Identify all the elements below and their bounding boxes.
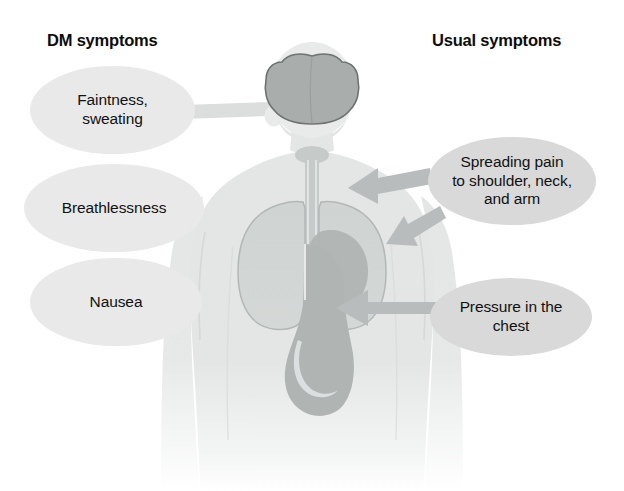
callout-spreading-pain: Spreading painto shoulder, neck,and arm xyxy=(428,137,596,225)
callout-breathlessness: Breathlessness xyxy=(24,164,204,252)
heading-usual-symptoms: Usual symptoms xyxy=(432,31,561,50)
symptom-diagram: DM symptoms Usual symptoms Faintness,swe… xyxy=(0,0,624,491)
brain xyxy=(265,54,358,124)
callout-nausea: Nausea xyxy=(30,258,202,346)
callout-nausea-label: Nausea xyxy=(82,293,151,312)
callout-breathlessness-label: Breathlessness xyxy=(54,199,175,218)
callout-faintness-sweating: Faintness,sweating xyxy=(30,66,195,154)
callout-spreading-pain-label: Spreading painto shoulder, neck,and arm xyxy=(444,153,580,210)
callout-pressure-in-chest-label: Pressure in thechest xyxy=(452,298,571,336)
heading-dm-symptoms: DM symptoms xyxy=(47,31,158,50)
callout-pressure-in-chest: Pressure in thechest xyxy=(430,278,592,356)
callout-faintness-label: Faintness,sweating xyxy=(69,91,156,129)
